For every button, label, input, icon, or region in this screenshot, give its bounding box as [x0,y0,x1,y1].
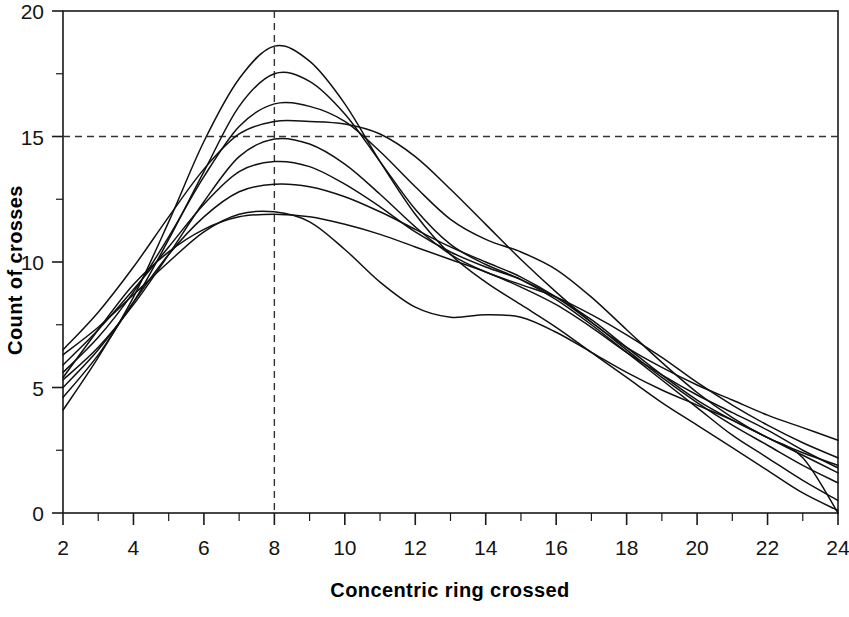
line-chart: 05101520 24681012141618202224 Concentric… [0,0,849,617]
y-tick-label: 0 [32,502,44,525]
x-tick-label: 6 [198,536,210,559]
series-line-subject-3 [63,102,838,465]
x-tick-label: 20 [685,536,708,559]
x-axis-tick-labels: 24681012141618202224 [57,536,849,559]
plot-frame [63,11,838,513]
x-tick-label: 16 [545,536,568,559]
series-line-subject-7 [63,184,838,483]
x-tick-label: 18 [615,536,638,559]
data-series-group [63,46,838,513]
chart-container: 05101520 24681012141618202224 Concentric… [0,0,849,617]
series-line-subject-9 [63,211,838,513]
y-tick-label: 20 [21,0,44,23]
x-tick-label: 22 [756,536,779,559]
x-axis-title: Concentric ring crossed [330,579,569,601]
y-tick-label: 15 [21,126,44,149]
x-tick-label: 8 [269,536,281,559]
series-line-subject-1 [63,46,838,511]
y-axis-title: Count of crosses [4,185,26,355]
y-axis-ticks [52,11,63,513]
x-tick-label: 4 [128,536,140,559]
x-tick-label: 12 [404,536,427,559]
y-tick-label: 5 [32,377,44,400]
reference-lines [63,11,838,513]
series-line-subject-4 [63,120,838,440]
x-axis-ticks [63,513,838,525]
x-tick-label: 14 [474,536,498,559]
x-tick-label: 10 [333,536,356,559]
x-tick-label: 24 [826,536,849,559]
x-tick-label: 2 [57,536,69,559]
